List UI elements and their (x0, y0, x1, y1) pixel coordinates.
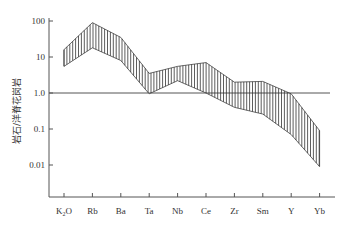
y-tick-label: 100 (32, 16, 46, 26)
x-tick-label: Sm (257, 206, 269, 216)
x-tick-label: Yb (314, 206, 325, 216)
y-tick-label: 0.1 (34, 124, 45, 134)
x-tick-label: Ba (116, 206, 126, 216)
y-axis-label: 岩石/洋脊花岗岩 (11, 78, 22, 144)
axis-lines (49, 18, 335, 197)
x-tick-label: Ta (145, 206, 154, 216)
axes (49, 18, 335, 197)
x-tick-label: Rb (87, 206, 98, 216)
x-tick-label: Y (288, 206, 295, 216)
spider-diagram: K2ORbBaTaNbCeZrSmYYb 100101.00.10.01 岩石/… (0, 0, 346, 229)
x-tick-label: Ce (201, 206, 211, 216)
y-tick-label: 0.01 (29, 160, 45, 170)
y-tick-label: 10 (36, 52, 46, 62)
hatched-band (64, 23, 320, 167)
x-tick-label: K2O (56, 206, 73, 217)
x-tick-label: Nb (172, 206, 183, 216)
x-tick-label: Zr (230, 206, 239, 216)
y-tick-label: 1.0 (34, 88, 46, 98)
hatch-lines (64, 23, 319, 166)
